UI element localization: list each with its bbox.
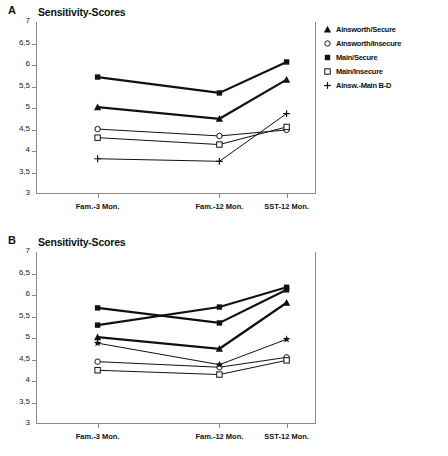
x-axis-tick-mark [98, 194, 99, 198]
series-line [98, 339, 287, 364]
x-axis-tick-label: Fam.-3 Mon. [76, 202, 120, 211]
data-point [283, 335, 291, 342]
data-point [283, 76, 290, 83]
y-axis-tick: 3,5 [2, 403, 36, 404]
data-point [284, 59, 289, 64]
series-line [98, 62, 287, 93]
y-axis-tick-label: 7 [4, 246, 30, 255]
y-axis-tick-label: 5,5 [4, 81, 30, 90]
data-point [283, 299, 290, 306]
legend-item[interactable]: Main/Secure [322, 50, 401, 64]
y-axis-tick: 6 [2, 65, 36, 66]
series-line [98, 357, 287, 367]
y-axis-tick-label: 6,5 [4, 268, 30, 277]
panel-b: B Sensitivity-Scores 33,544,555,566,57Fa… [0, 230, 448, 456]
y-axis-tick: 5 [2, 108, 36, 109]
open-square-icon [322, 66, 333, 77]
x-axis-tick-mark [287, 194, 288, 198]
series-layer [36, 22, 316, 194]
y-axis-tick-label: 6,5 [4, 38, 30, 47]
y-axis-tick: 4 [2, 381, 36, 382]
panel-b-plot-area: 33,544,555,566,57Fam.-3 Mon.Fam.-12 Mon.… [36, 252, 316, 424]
data-point [95, 359, 100, 364]
y-axis-tick: 5,5 [2, 317, 36, 318]
x-axis-tick-mark [98, 424, 99, 428]
legend-item[interactable]: Ainsworth/Secure [322, 22, 401, 36]
y-axis-tick: 7 [2, 22, 36, 23]
x-axis-tick-label: SST-12 Mon. [264, 202, 309, 211]
series-line [98, 129, 287, 136]
data-point [217, 304, 222, 309]
data-point [95, 74, 100, 79]
y-axis-tick-label: 4 [4, 375, 30, 384]
y-axis-tick: 3,5 [2, 173, 36, 174]
y-axis-tick-label: 6 [4, 289, 30, 298]
x-axis-tick-label: Fam.-12 Mon. [195, 202, 243, 211]
y-axis-tick-label: 3 [4, 418, 30, 427]
y-axis-tick-label: 4,5 [4, 354, 30, 363]
filled-triangle-icon [322, 24, 333, 35]
legend-label: Main/Insecure [336, 67, 383, 76]
legend-item[interactable]: Ainsw.-Main B-D [322, 78, 401, 92]
data-point [217, 320, 222, 325]
panel-a-legend: Ainsworth/SecureAinsworth/InsecureMain/S… [322, 22, 401, 92]
data-point [284, 285, 289, 290]
x-axis-tick-mark [287, 424, 288, 428]
y-axis-tick-label: 6 [4, 59, 30, 68]
y-axis-tick-label: 5 [4, 332, 30, 341]
series-layer [36, 252, 316, 424]
data-point [217, 372, 222, 377]
data-point [217, 142, 222, 147]
data-point [283, 110, 290, 117]
y-axis-tick: 4,5 [2, 130, 36, 131]
y-axis-tick: 3 [2, 194, 36, 195]
data-point [217, 133, 222, 138]
panel-a: A Sensitivity-Scores 33,544,555,566,57Fa… [0, 0, 448, 228]
y-axis-tick-label: 3 [4, 188, 30, 197]
panel-b-title: Sensitivity-Scores [38, 236, 125, 248]
legend-label: Ainsw.-Main B-D [336, 81, 391, 90]
data-point [284, 124, 289, 129]
panel-b-letter: B [8, 234, 16, 246]
legend-label: Ainsworth/Insecure [336, 39, 401, 48]
y-axis-tick: 4,5 [2, 360, 36, 361]
panel-a-letter: A [8, 4, 16, 16]
y-axis-tick-label: 5 [4, 102, 30, 111]
y-axis-tick: 5 [2, 338, 36, 339]
data-point [216, 158, 223, 165]
y-axis-tick: 4 [2, 151, 36, 152]
series-line [98, 80, 287, 119]
x-axis-tick-label: Fam.-3 Mon. [76, 432, 120, 441]
x-axis-tick-mark [219, 424, 220, 428]
panel-a-plot-area: 33,544,555,566,57Fam.-3 Mon.Fam.-12 Mon.… [36, 22, 316, 194]
y-axis-tick-label: 3,5 [4, 397, 30, 406]
data-point [94, 339, 102, 346]
x-axis-tick-label: Fam.-12 Mon. [195, 432, 243, 441]
legend-item[interactable]: Ainsworth/Insecure [322, 36, 401, 50]
y-axis-tick: 6,5 [2, 44, 36, 45]
y-axis-tick: 5,5 [2, 87, 36, 88]
data-point [95, 305, 100, 310]
x-axis-tick-label: SST-12 Mon. [264, 432, 309, 441]
panel-a-title: Sensitivity-Scores [38, 6, 125, 18]
legend-item[interactable]: Main/Insecure [322, 64, 401, 78]
series-line [98, 303, 287, 349]
y-axis-tick-label: 4 [4, 145, 30, 154]
legend-label: Main/Secure [336, 53, 377, 62]
data-point [95, 368, 100, 373]
y-axis-tick: 7 [2, 252, 36, 253]
series-line [98, 127, 287, 145]
data-point [95, 126, 100, 131]
open-circle-icon [322, 38, 333, 49]
data-point [94, 155, 101, 162]
data-point [95, 322, 100, 327]
series-line [98, 114, 287, 162]
data-point [217, 90, 222, 95]
y-axis-tick: 3 [2, 424, 36, 425]
y-axis-tick: 6 [2, 295, 36, 296]
y-axis-tick-label: 5,5 [4, 311, 30, 320]
y-axis-tick: 6,5 [2, 274, 36, 275]
x-axis-tick-mark [219, 194, 220, 198]
plus-icon [322, 80, 333, 91]
filled-square-icon [322, 52, 333, 63]
